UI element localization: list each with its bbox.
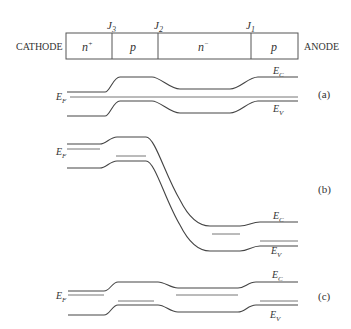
device-structure: CATHODE ANODE n+ p n− p J3 J2 J1 <box>16 19 339 59</box>
panel-b: EC EV EF (b) <box>55 137 331 259</box>
anode-label: ANODE <box>304 41 339 52</box>
conduction-band-c <box>68 282 298 291</box>
ev-label-a: EV <box>272 103 284 117</box>
panel-a: EC EV EF (a) <box>55 65 331 117</box>
ec-label-c: EC <box>271 269 283 283</box>
cathode-label: CATHODE <box>16 41 63 52</box>
junction-j1-label: J1 <box>246 19 255 34</box>
ef-label-a: EF <box>55 91 67 105</box>
valence-band-c <box>68 305 298 315</box>
ef-label-c: EF <box>55 290 67 304</box>
conduction-band-a <box>67 77 298 92</box>
panel-b-label: (b) <box>318 183 331 196</box>
ev-label-b: EV <box>270 245 282 259</box>
valence-band-b <box>67 161 298 251</box>
conduction-band-b <box>67 137 298 226</box>
valence-band-a <box>67 101 298 116</box>
panel-a-label: (a) <box>318 88 331 101</box>
device-outline <box>66 33 298 59</box>
region-p-2: p <box>270 40 277 54</box>
ev-label-c: EV <box>269 309 281 323</box>
panel-c: EC EV EF (c) <box>55 269 331 323</box>
region-p-1: p <box>129 40 136 54</box>
junction-j2-label: J2 <box>154 19 163 34</box>
thyristor-band-diagram: CATHODE ANODE n+ p n− p J3 J2 J1 EC EV E… <box>0 0 351 329</box>
region-n-minus: n− <box>198 40 209 54</box>
junction-j3-label: J3 <box>107 19 116 34</box>
panel-c-label: (c) <box>318 290 331 303</box>
ef-label-b: EF <box>55 146 67 160</box>
region-n-plus: n+ <box>82 40 93 54</box>
